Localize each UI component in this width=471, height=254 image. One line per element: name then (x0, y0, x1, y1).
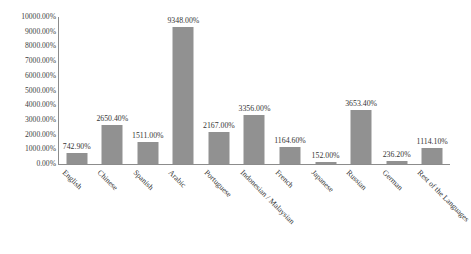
bar-slot: 2650.40% (95, 17, 131, 164)
bar-slot: 1114.10% (414, 17, 450, 164)
bar-value-label: 3653.40% (345, 99, 377, 108)
bar-slot: 3356.00% (237, 17, 273, 164)
y-axis-tick-label: 6000.00% (0, 72, 56, 80)
bar[interactable] (422, 148, 443, 164)
bar[interactable] (280, 147, 301, 164)
y-axis-tick-label: 5000.00% (0, 87, 56, 95)
bar-value-label: 1114.10% (417, 137, 448, 146)
bar-slot: 1164.60% (272, 17, 308, 164)
x-axis-category-label: Japanese (309, 168, 335, 194)
plot-area: 742.90%2650.40%1511.00%9348.00%2167.00%3… (59, 17, 450, 164)
bar[interactable] (244, 115, 265, 164)
x-axis-category-label: Portuguese (203, 168, 234, 199)
y-axis-tick-label: 4000.00% (0, 101, 56, 109)
y-axis-tick-label: 9000.00% (0, 28, 56, 36)
bar[interactable] (173, 27, 194, 164)
bar-value-label: 2650.40% (96, 114, 128, 123)
bar-value-label: 152.00% (312, 151, 340, 160)
bar-value-label: 2167.00% (203, 121, 235, 130)
x-axis-category-label: French (274, 168, 296, 190)
bar-slot: 236.20% (379, 17, 415, 164)
bar[interactable] (351, 110, 372, 164)
x-axis-category-label: Chinese (96, 168, 120, 192)
y-axis-tick-label: 2000.00% (0, 131, 56, 139)
bar-slot: 1511.00% (130, 17, 166, 164)
y-axis-tick-label: 7000.00% (0, 57, 56, 65)
bar-slot: 3653.40% (343, 17, 379, 164)
bar[interactable] (208, 132, 229, 164)
bar-value-label: 742.90% (63, 142, 91, 151)
bar-value-label: 236.20% (383, 150, 411, 159)
x-axis-category-label: Rest of the Languages (416, 168, 471, 224)
x-axis-category-label: Arabic (167, 168, 188, 189)
y-axis-tick-label: 8000.00% (0, 42, 56, 50)
bar-value-label: 1511.00% (132, 131, 164, 140)
x-axis-category-label: Russian (345, 168, 369, 192)
bar-slot: 9348.00% (166, 17, 202, 164)
bar-value-label: 3356.00% (239, 104, 271, 113)
y-axis-tick-label: 10000.00% (0, 13, 56, 21)
bar-slot: 152.00% (308, 17, 344, 164)
bar-value-label: 9348.00% (167, 16, 199, 25)
y-axis-tick-label: 1000.00% (0, 145, 56, 153)
bar-slot: 742.90% (59, 17, 95, 164)
bar[interactable] (137, 142, 158, 164)
bar[interactable] (66, 153, 87, 164)
x-axis-category-label: German (380, 168, 404, 192)
y-axis-tick-label: 3000.00% (0, 116, 56, 124)
x-axis-category-label: Spanish (131, 168, 155, 192)
bar[interactable] (102, 125, 123, 164)
x-axis-category-labels: EnglishChineseSpanishArabicPortugueseInd… (0, 164, 457, 254)
bar-slot: 2167.00% (201, 17, 237, 164)
bar-value-label: 1164.60% (274, 136, 306, 145)
x-axis-category-label: English (60, 168, 83, 191)
